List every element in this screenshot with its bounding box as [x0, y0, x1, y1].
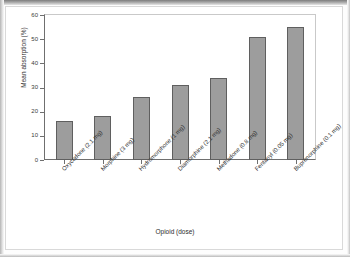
y-axis-tick	[40, 15, 44, 16]
y-axis-tick	[40, 112, 44, 113]
y-axis-tick-label: 10	[20, 132, 38, 139]
y-axis-tick	[40, 63, 44, 64]
scan-top-band-artifact	[0, 0, 350, 5]
bar	[210, 78, 227, 160]
y-axis-tick	[40, 39, 44, 40]
bar-series	[45, 15, 315, 160]
bar	[56, 121, 73, 160]
y-axis-tick-label: 20	[20, 108, 38, 115]
y-axis-tick	[40, 136, 44, 137]
bar	[133, 97, 150, 160]
x-axis-title: Opioid (dose)	[0, 228, 350, 235]
y-axis-tick	[40, 88, 44, 89]
y-axis-tick-label: 0	[20, 157, 38, 164]
y-axis-title: Mean absorption (%)	[20, 13, 27, 103]
y-axis-tick	[40, 160, 44, 161]
figure-canvas: 0102030405060 Oxycodone (2.1 mg)Morphine…	[0, 0, 350, 257]
scan-left-edge-artifact	[0, 0, 4, 257]
